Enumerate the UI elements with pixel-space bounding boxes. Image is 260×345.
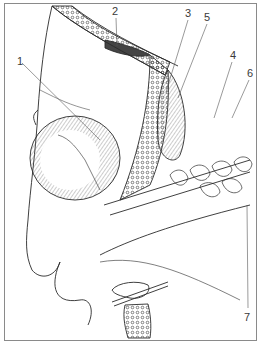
label-3: 3 [185,8,191,19]
leader-line-4 [214,62,232,118]
label-6: 6 [247,68,253,79]
ethmoid-wall [120,55,185,200]
label-5: 5 [204,12,210,23]
label-4: 4 [230,50,236,61]
leader-line-5 [178,24,207,98]
lower-jaw [112,282,168,338]
label-7: 7 [244,312,250,323]
eyeball [30,116,120,200]
leader-line-7 [247,205,248,308]
label-1: 1 [17,56,23,67]
label-2: 2 [112,6,118,17]
nasal-floor [100,160,250,300]
leader-line-6 [232,80,249,118]
anatomical-illustration [0,0,260,345]
